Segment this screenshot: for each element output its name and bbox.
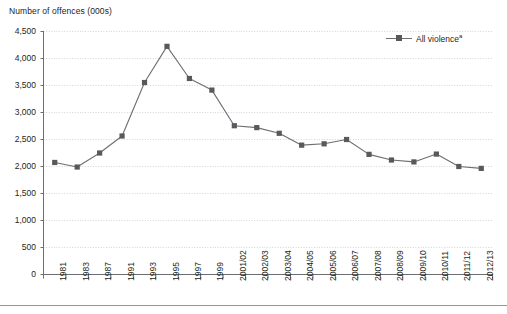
y-axis-tick-label: 1,000 — [2, 215, 36, 225]
data-point-marker[interactable] — [277, 131, 282, 136]
data-point-marker[interactable] — [97, 150, 102, 155]
y-axis-tick-label: 3,000 — [2, 107, 36, 117]
data-point-marker[interactable] — [187, 76, 192, 81]
data-point-marker[interactable] — [479, 166, 484, 171]
data-point-marker[interactable] — [299, 143, 304, 148]
y-axis-tick-label: 4,000 — [2, 53, 36, 63]
legend-series-label: All violencea — [416, 33, 462, 44]
x-axis-tick-label: 2009/10 — [418, 250, 428, 281]
y-axis-tick-label: 4,500 — [2, 26, 36, 36]
data-point-marker[interactable] — [164, 44, 169, 49]
series-line — [55, 46, 482, 168]
x-axis-tick-label: 2004/05 — [305, 250, 315, 281]
x-axis-tick-label: 2011/12 — [462, 250, 472, 280]
y-axis-tick-label: 0 — [2, 269, 36, 279]
data-point-marker[interactable] — [254, 125, 259, 130]
x-axis-tick-label: 1999 — [215, 262, 225, 281]
x-axis-tick-label: 2010/11 — [440, 250, 450, 280]
x-axis-tick-label: 1993 — [148, 262, 158, 281]
x-axis-tick-label: 2005/06 — [328, 250, 338, 281]
chart-legend: All violencea — [386, 33, 462, 44]
x-axis-tick-label: 2012/13 — [485, 250, 495, 281]
x-axis-tick-label: 2008/09 — [395, 250, 405, 281]
x-axis-tick-label: 2002/03 — [260, 250, 270, 281]
x-axis-tick-label: 1987 — [103, 262, 113, 281]
data-point-marker[interactable] — [209, 87, 214, 92]
x-axis-tick-label: 1981 — [58, 262, 68, 281]
x-axis-tick-label: 2006/07 — [350, 250, 360, 281]
x-axis-tick-label: 1995 — [171, 262, 181, 281]
x-axis-tick-label: 2007/08 — [373, 250, 383, 281]
data-point-marker[interactable] — [411, 159, 416, 164]
x-axis-tick-label: 2001/02 — [238, 250, 248, 281]
data-point-marker[interactable] — [366, 152, 371, 157]
x-axis-tick-label: 1991 — [126, 262, 136, 281]
legend-series-marker-icon — [386, 34, 412, 43]
data-point-marker[interactable] — [456, 164, 461, 169]
data-point-marker[interactable] — [75, 164, 80, 169]
data-point-marker[interactable] — [142, 80, 147, 85]
y-axis-tick-label: 500 — [2, 242, 36, 252]
data-point-marker[interactable] — [322, 141, 327, 146]
data-point-marker[interactable] — [434, 151, 439, 156]
data-point-marker[interactable] — [232, 123, 237, 128]
plot-area — [0, 0, 507, 314]
data-point-marker[interactable] — [389, 157, 394, 162]
footer-divider — [0, 305, 507, 306]
x-axis-tick-label: 2003/04 — [283, 250, 293, 281]
data-point-marker[interactable] — [119, 133, 124, 138]
y-axis-tick-label: 1,500 — [2, 188, 36, 198]
legend-footnote-marker: a — [459, 33, 462, 39]
y-axis-tick-label: 3,500 — [2, 80, 36, 90]
y-axis-tick-label: 2,500 — [2, 134, 36, 144]
data-point-marker[interactable] — [344, 137, 349, 142]
y-axis-tick-label: 2,000 — [2, 161, 36, 171]
x-axis-tick-label: 1997 — [193, 262, 203, 281]
chart-container: Number of offences (000s) All violencea … — [0, 0, 507, 314]
data-point-marker[interactable] — [52, 160, 57, 165]
x-axis-tick-label: 1983 — [81, 262, 91, 281]
